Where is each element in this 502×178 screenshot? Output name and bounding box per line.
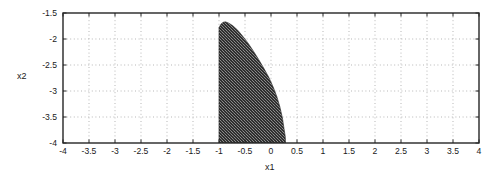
x-tick-label: -3.5 <box>82 146 97 156</box>
y-axis-label: x2 <box>17 71 27 81</box>
x-tick-label: 3 <box>425 146 430 156</box>
y-tick-label: -1.5 <box>42 8 57 18</box>
x-tick-label: 4 <box>477 146 482 156</box>
x-tick-label: -3 <box>111 146 119 156</box>
x-tick-label: -1 <box>215 146 223 156</box>
x-tick-label: 1 <box>321 146 326 156</box>
x-tick-label: 3.5 <box>447 146 459 156</box>
x-tick-label: 1.5 <box>343 146 355 156</box>
x-tick-label: -2 <box>163 146 171 156</box>
y-tick-label: -2 <box>49 34 57 44</box>
y-tick-label: -2.5 <box>42 60 57 70</box>
x-tick-label: 2 <box>373 146 378 156</box>
x-tick-label: 0 <box>269 146 274 156</box>
y-tick-label: -3 <box>49 86 57 96</box>
x-tick-label: -1.5 <box>186 146 201 156</box>
plot-figure: x2 x1 -4-3.5-3-2.5-2-1.5-1-0.500.5 <box>0 0 502 178</box>
x-tick-label: -0.5 <box>238 146 253 156</box>
x-axis-tick-labels: -4-3.5-3-2.5-2-1.5-1-0.500.511.522.533.5… <box>59 146 481 156</box>
plot-canvas: -4-3.5-3-2.5-2-1.5-1-0.500.511.522.533.5… <box>0 0 502 178</box>
x-tick-label: -4 <box>59 146 67 156</box>
y-tick-label: -3.5 <box>42 112 57 122</box>
y-tick-label: -4 <box>49 138 57 148</box>
x-tick-label: 0.5 <box>291 146 303 156</box>
y-axis-tick-labels: -4-3.5-3-2.5-2-1.5 <box>42 8 57 148</box>
x-tick-label: 2.5 <box>395 146 407 156</box>
x-tick-label: -2.5 <box>134 146 149 156</box>
x-axis-label: x1 <box>265 162 275 172</box>
